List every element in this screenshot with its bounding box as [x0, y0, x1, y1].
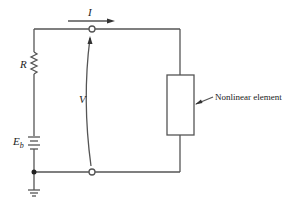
battery-label: Eb [12, 135, 24, 150]
current-arrowhead-icon [107, 19, 115, 24]
nonlinear-element-box [167, 75, 194, 135]
circuit-diagram: I R V Eb Nonlinear element [0, 0, 284, 216]
terminal-bottom [89, 169, 95, 175]
terminal-top [89, 26, 95, 32]
current-label: I [87, 6, 93, 18]
resistor-symbol [31, 52, 37, 74]
element-leader-arrowhead-icon [195, 100, 203, 105]
nonlinear-element-label: Nonlinear element [215, 92, 282, 102]
voltage-arrow-line [86, 38, 91, 166]
resistor-label: R [19, 58, 27, 70]
junction-dot [32, 170, 37, 175]
battery-label-subscript: b [20, 141, 24, 150]
voltage-arrowhead-icon [88, 36, 93, 44]
